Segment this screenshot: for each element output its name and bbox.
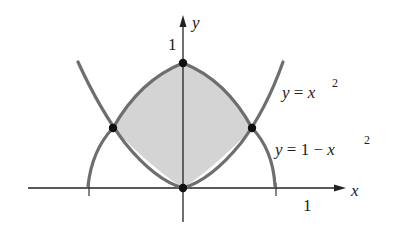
exponent-one-minus-x-squared: 2 [364, 133, 370, 147]
point-right-intersection [248, 124, 256, 132]
exponent-x-squared: 2 [332, 76, 338, 90]
point-left-intersection [109, 124, 117, 132]
y-axis-arrow-icon [180, 15, 187, 27]
x-axis-arrow-icon [334, 185, 346, 192]
label-y-equals-x-squared: y = x [280, 83, 316, 102]
y-axis-label: y [190, 13, 200, 32]
point-top [179, 59, 187, 67]
y-tick-label: 1 [168, 35, 177, 54]
point-origin [179, 184, 187, 192]
x-tick-label: 1 [303, 196, 312, 215]
region-diagram: y 1 x 1 y = x 2 y = 1 − x 2 [0, 0, 404, 246]
x-axis-label: x [350, 181, 359, 200]
label-y-equals-one-minus-x-squared: y = 1 − x [273, 140, 335, 159]
